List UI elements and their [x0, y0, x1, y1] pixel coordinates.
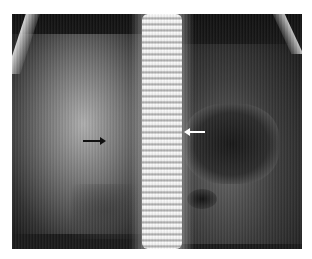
xray-image	[12, 14, 302, 249]
black-arrow-icon	[83, 140, 101, 142]
film-texture	[12, 14, 302, 249]
white-arrow-icon	[189, 131, 205, 133]
